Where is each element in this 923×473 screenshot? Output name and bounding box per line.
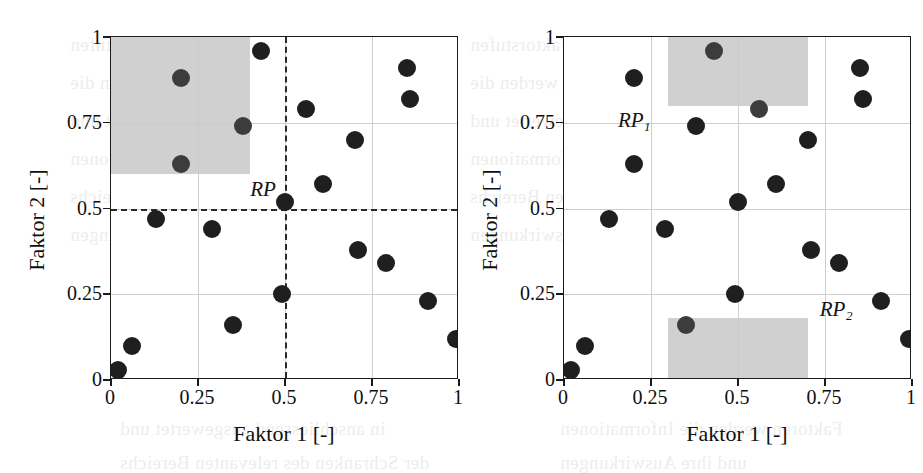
data-point [726, 285, 744, 303]
region-label-rp2: RP2 [820, 297, 852, 322]
y-axis-tick [556, 36, 563, 38]
data-point [297, 100, 315, 118]
gridline-horizontal [564, 123, 910, 124]
y-axis-tick [556, 122, 563, 124]
data-point [401, 90, 419, 108]
x-axis-tick [197, 379, 199, 386]
x-tick-label: 0.75 [354, 386, 389, 409]
data-point [563, 361, 580, 379]
x-axis-tick [824, 379, 826, 386]
y-tick-label: 0 [92, 368, 102, 391]
data-point [677, 316, 695, 334]
y-axis-title: Faktor 2 [-] [477, 120, 503, 320]
x-tick-label: 0.5 [272, 386, 297, 409]
y-tick-label: 1 [92, 26, 102, 49]
y-tick-label-group: 0 0.25 0.5 0.75 1 [46, 0, 102, 473]
data-point [172, 155, 190, 173]
data-point [900, 330, 911, 348]
data-point [802, 241, 820, 259]
data-point [705, 42, 723, 60]
region-label-rp1: RP1 [618, 108, 650, 133]
data-point [252, 42, 270, 60]
data-point [447, 330, 458, 348]
panel-left: RP 0 0.25 0.5 0.75 1 0 0.25 0.5 0.75 1 F… [0, 0, 462, 473]
region-label-subscript: 2 [846, 308, 853, 323]
region-rect-rp1 [668, 37, 807, 106]
y-axis-tick [103, 122, 110, 124]
x-tick-label: 0.75 [807, 386, 842, 409]
x-axis-tick [563, 379, 565, 386]
data-point [625, 69, 643, 87]
y-axis-title: Faktor 2 [-] [24, 120, 50, 320]
region-label-subscript: 1 [644, 119, 651, 134]
data-point [147, 210, 165, 228]
gridline-vertical [651, 37, 652, 378]
x-axis-tick [284, 379, 286, 386]
x-axis-tick [110, 379, 112, 386]
x-tick-label: 1 [906, 386, 916, 409]
data-point [854, 90, 872, 108]
data-point [203, 220, 221, 238]
data-point [377, 254, 395, 272]
data-point [172, 69, 190, 87]
y-axis-tick [556, 293, 563, 295]
data-point [419, 292, 437, 310]
data-point [110, 361, 127, 379]
x-tick-label: 0 [105, 386, 115, 409]
plot-area-right: RP1RP2 [563, 36, 911, 379]
data-point [750, 100, 768, 118]
y-tick-label: 0.5 [77, 197, 102, 220]
data-point [276, 193, 294, 211]
gridline-vertical [372, 37, 373, 378]
region-rect-rp [111, 37, 250, 174]
x-tick-label: 0 [558, 386, 568, 409]
y-axis-tick [103, 293, 110, 295]
data-point [314, 175, 332, 193]
data-point [656, 220, 674, 238]
data-point [600, 210, 618, 228]
data-point [799, 131, 817, 149]
y-tick-label: 0.5 [530, 197, 555, 220]
region-label-rp: RP [250, 177, 276, 202]
panel-right: RP1RP2 0 0.25 0.5 0.75 1 0 0.25 0.5 0.75… [453, 0, 915, 473]
y-axis-tick [103, 36, 110, 38]
x-axis-tick [371, 379, 373, 386]
x-axis-tick [458, 379, 460, 386]
data-point [398, 59, 416, 77]
y-tick-label: 0 [545, 368, 555, 391]
data-point [830, 254, 848, 272]
y-tick-label: 0.25 [520, 282, 555, 305]
data-point [872, 292, 890, 310]
y-axis-tick [103, 208, 110, 210]
x-axis-tick [650, 379, 652, 386]
figure-two-panel-scatter: RP 0 0.25 0.5 0.75 1 0 0.25 0.5 0.75 1 F… [0, 0, 923, 473]
data-point [851, 59, 869, 77]
plot-area-left: RP [110, 36, 458, 379]
y-tick-label: 0.25 [67, 282, 102, 305]
x-axis-tick [737, 379, 739, 386]
data-point [349, 241, 367, 259]
x-tick-label: 0.5 [725, 386, 750, 409]
x-tick-label: 0.25 [633, 386, 668, 409]
data-point [767, 175, 785, 193]
data-point [729, 193, 747, 211]
x-axis-title: Faktor 1 [-] [110, 421, 458, 447]
y-tick-label: 0.75 [67, 111, 102, 134]
y-tick-label-group: 0 0.25 0.5 0.75 1 [499, 0, 555, 473]
data-point [625, 155, 643, 173]
data-point [687, 117, 705, 135]
x-tick-label: 0.25 [180, 386, 215, 409]
x-axis-tick [911, 379, 913, 386]
data-point [273, 285, 291, 303]
y-axis-tick [103, 379, 110, 381]
x-axis-title: Faktor 1 [-] [563, 421, 911, 447]
data-point [224, 316, 242, 334]
y-tick-label: 1 [545, 26, 555, 49]
data-point [123, 337, 141, 355]
y-axis-tick [556, 208, 563, 210]
y-tick-label: 0.75 [520, 111, 555, 134]
gridline-vertical [825, 37, 826, 378]
data-point [576, 337, 594, 355]
data-point [346, 131, 364, 149]
y-axis-tick [556, 379, 563, 381]
